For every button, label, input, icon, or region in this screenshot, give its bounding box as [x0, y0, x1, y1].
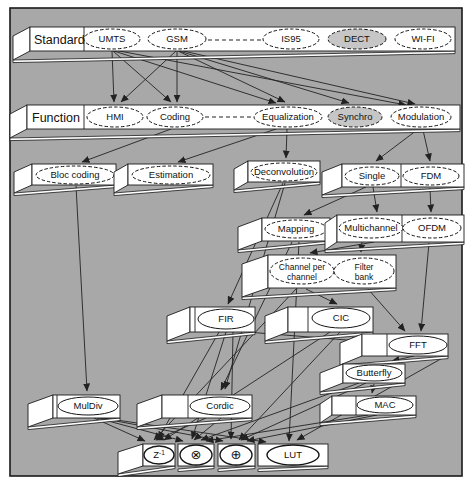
node-bloc-coding: Bloc coding	[36, 166, 114, 184]
node-filter-bank-label2: bank	[355, 272, 374, 282]
node-umts: UMTS	[84, 29, 140, 49]
node-butterfly-label: Butterfly	[357, 367, 392, 378]
node-cordic-label: Cordic	[206, 400, 234, 411]
node-mac: MAC	[357, 397, 413, 413]
node-fft-label: FFT	[409, 339, 427, 350]
node-muldiv: MulDiv	[58, 397, 118, 415]
node-is95: IS95	[263, 29, 319, 49]
node-fdm: FDM	[403, 167, 459, 185]
node-channel-per-channel-label: Channel per	[279, 262, 325, 272]
node-single: Single	[345, 167, 399, 185]
node-coding: Coding	[147, 107, 203, 127]
node-cic: CIC	[312, 308, 370, 328]
node-gsm-label: GSM	[166, 33, 188, 44]
node-lut: LUT	[267, 445, 319, 465]
node-hmi-label: HMI	[106, 111, 123, 122]
node-equalization-label: Equalization	[262, 111, 314, 122]
node-z1: Z-1	[144, 446, 174, 464]
node-estimation: Estimation	[132, 166, 210, 184]
node-otimes-label: ⊗	[191, 447, 202, 462]
node-modulation-label: Modulation	[398, 111, 444, 122]
node-ofdm-label: OFDM	[418, 222, 446, 233]
node-fir: FIR	[198, 309, 254, 329]
node-fft: FFT	[389, 336, 447, 354]
node-modulation: Modulation	[391, 107, 451, 127]
node-dect-label: DECT	[344, 33, 370, 44]
node-cordic: Cordic	[190, 397, 250, 415]
node-mapping-label: Mapping	[278, 223, 314, 234]
node-equalization: Equalization	[254, 107, 322, 127]
node-synchro-label: Synchro	[338, 111, 373, 122]
node-coding-label: Coding	[160, 111, 190, 122]
node-multichannel: Multichannel	[339, 218, 403, 238]
node-deconvolution: Deconvolution	[251, 163, 317, 181]
node-otimes: ⊗	[180, 445, 212, 465]
node-channel-per-channel: Channel perchannel	[270, 258, 334, 284]
function-band-label: Function	[32, 111, 80, 125]
node-cic-label: CIC	[333, 312, 350, 323]
node-is95-label: IS95	[281, 33, 301, 44]
sdr-hierarchy-diagram: StandardUMTSGSMIS95DECTWI-FIFunctionHMIC…	[0, 0, 468, 486]
node-multichannel-label: Multichannel	[344, 222, 397, 233]
node-fdm-label: FDM	[421, 170, 442, 181]
node-mapping: Mapping	[265, 220, 327, 238]
node-fir-label: FIR	[218, 313, 233, 324]
node-single-label: Single	[359, 170, 385, 181]
node-deconvolution-label: Deconvolution	[254, 166, 314, 177]
node-channel-per-channel-label2: channel	[287, 272, 317, 282]
node-synchro: Synchro	[328, 107, 382, 127]
node-mac-label: MAC	[374, 399, 395, 410]
node-bloc-coding-label: Bloc coding	[50, 169, 99, 180]
node-butterfly: Butterfly	[346, 365, 402, 381]
node-umts-label: UMTS	[99, 33, 126, 44]
node-filter-bank-label: Filter	[355, 262, 374, 272]
node-wifi-label: WI-FI	[411, 33, 434, 44]
diagram-figure: StandardUMTSGSMIS95DECTWI-FIFunctionHMIC…	[0, 0, 468, 486]
standard-band-label: Standard	[34, 33, 85, 47]
node-filter-bank: Filterbank	[334, 258, 394, 284]
node-lut-label: LUT	[284, 449, 302, 460]
node-wifi: WI-FI	[395, 29, 451, 49]
node-gsm: GSM	[148, 29, 206, 49]
node-estimation-label: Estimation	[149, 169, 193, 180]
node-hmi: HMI	[87, 107, 143, 127]
node-oplus-label: ⊕	[231, 447, 242, 462]
node-ofdm: OFDM	[403, 218, 461, 238]
node-muldiv-label: MulDiv	[73, 400, 102, 411]
node-dect: DECT	[328, 29, 386, 49]
node-oplus: ⊕	[220, 445, 252, 465]
